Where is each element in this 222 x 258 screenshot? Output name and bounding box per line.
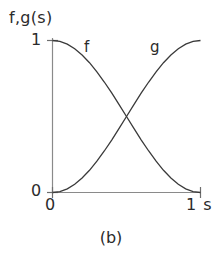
curve-g xyxy=(53,41,201,193)
x-tick-label-0: 0 xyxy=(45,195,55,214)
curve-label-g: g xyxy=(150,38,160,56)
figure-caption: (b) xyxy=(0,228,222,247)
y-tick-label-0: 0 xyxy=(31,181,41,200)
x-tick-label-1s: 1 s xyxy=(186,195,213,214)
figure-panel-b: f,g(s) 1 0 0 1 s f g (b) xyxy=(0,0,222,258)
y-tick-label-1: 1 xyxy=(31,30,41,49)
curve-label-f: f xyxy=(84,38,89,56)
